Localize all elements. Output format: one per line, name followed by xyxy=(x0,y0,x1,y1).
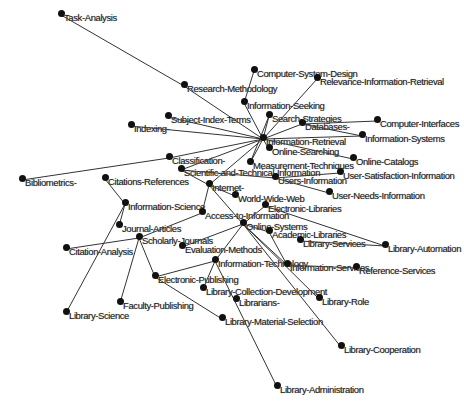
graph-node[interactable]: Research-Methodology xyxy=(181,83,277,94)
graph-node[interactable]: Electronic-Publishing xyxy=(152,274,238,285)
node-label: Online-Catalogs xyxy=(356,156,418,167)
node-label: Users-Information xyxy=(278,175,347,186)
node-label: Faculty-Publishing xyxy=(123,300,193,311)
graph-node[interactable]: Evaluation-Methods xyxy=(179,244,262,255)
graph-node[interactable]: Library-Administration xyxy=(274,384,364,395)
node-label: Research-Methodology xyxy=(187,83,277,94)
node-label: Internet- xyxy=(212,182,244,193)
graph-node[interactable]: Bibliometrics- xyxy=(19,177,76,188)
node-label: Library-Material-Selection xyxy=(225,316,323,327)
graph-node[interactable]: User-Satisfaction-Information xyxy=(337,170,454,181)
node-label: Reference-Services xyxy=(359,265,435,276)
graph-node[interactable]: Citation-Analysis xyxy=(63,246,133,257)
concept-network-graph: Task-AnalysisResearch-MethodologyCompute… xyxy=(0,0,464,409)
node-label: Library-Automation xyxy=(388,243,461,254)
node-label: Library-Science xyxy=(69,310,129,321)
graph-edge xyxy=(61,15,184,86)
node-label: Task-Analysis xyxy=(64,12,117,23)
graph-node[interactable]: Library-Role xyxy=(316,296,369,307)
graph-edge xyxy=(66,204,125,313)
node-label: Online-Searching xyxy=(272,146,339,157)
node-label: Journal-Articles xyxy=(122,223,181,234)
graph-node[interactable]: Information-Seeking xyxy=(241,100,324,111)
node-label: Databases- xyxy=(305,121,350,132)
graph-node[interactable]: Computer-Interfaces xyxy=(374,118,459,129)
node-label: Relevance-Information-Retrieval xyxy=(320,76,444,87)
graph-node[interactable]: Information-Systems xyxy=(359,133,445,144)
node-label: Evaluation-Methods xyxy=(185,244,262,255)
graph-node[interactable]: Library-Collection-Development xyxy=(200,286,327,297)
node-label: Library-Role xyxy=(322,296,369,307)
node-label: User-Needs-Information xyxy=(332,190,425,201)
graph-node[interactable]: Online-Searching xyxy=(266,146,339,157)
graph-node[interactable]: Library-Automation xyxy=(382,243,461,254)
graph-node[interactable]: Indexing- xyxy=(128,123,169,134)
graph-node[interactable]: Classification- xyxy=(166,155,225,166)
node-label: Information-Science xyxy=(128,201,205,212)
graph-node[interactable]: Librarians- xyxy=(233,297,279,308)
node-label: Indexing- xyxy=(134,123,169,134)
node-label: Librarians- xyxy=(239,297,279,308)
node-label: Information-Systems xyxy=(365,133,445,144)
node-label: Information-Seeking xyxy=(247,100,324,111)
node-label: Bibliometrics- xyxy=(25,177,76,188)
graph-node[interactable]: Library-Services xyxy=(297,238,365,249)
node-label: Electronic-Publishing xyxy=(158,274,238,285)
node-label: User-Satisfaction-Information xyxy=(343,170,454,181)
node-label: Access-to-Information xyxy=(205,210,289,221)
graph-node[interactable]: Databases- xyxy=(299,121,350,132)
node-label: Library-Administration xyxy=(280,384,364,395)
graph-node[interactable]: Library-Cooperation xyxy=(338,344,420,355)
graph-node[interactable]: Journal-Articles xyxy=(116,223,181,234)
graph-node[interactable]: Online-Catalogs xyxy=(350,156,418,167)
node-label: Computer-Interfaces xyxy=(380,118,459,129)
graph-node[interactable]: Information-Science xyxy=(122,201,205,212)
node-label: Citation-Analysis xyxy=(69,246,133,257)
graph-node[interactable]: Relevance-Information-Retrieval xyxy=(314,76,444,87)
graph-node[interactable]: User-Needs-Information xyxy=(326,190,425,201)
graph-node[interactable]: Subject-Index-Terms xyxy=(165,114,251,125)
graph-node[interactable]: Task-Analysis xyxy=(58,12,117,23)
graph-node[interactable]: Library-Material-Selection xyxy=(219,316,323,327)
node-label: Subject-Index-Terms xyxy=(171,114,251,125)
node-label: Citations-References xyxy=(108,176,189,187)
node-label: Library-Services xyxy=(303,238,365,249)
node-label: Library-Collection-Development xyxy=(206,286,327,297)
node-label: Library-Cooperation xyxy=(344,344,420,355)
graph-node[interactable]: Citations-References xyxy=(102,176,189,187)
graph-node[interactable]: Reference-Services xyxy=(353,265,435,276)
graph-node[interactable]: Library-Science xyxy=(63,310,129,321)
graph-node[interactable]: Users-Information xyxy=(272,175,347,186)
